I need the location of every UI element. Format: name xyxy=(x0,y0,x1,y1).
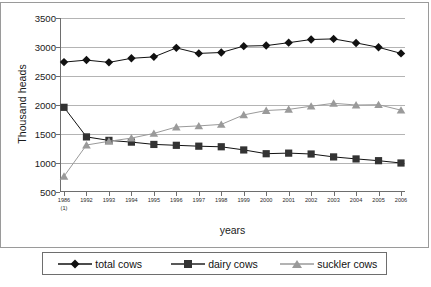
legend-label: suckler cows xyxy=(317,258,377,270)
chart-screenshot: Thousand heads 5001000150020002500300035… xyxy=(0,0,431,287)
diamond-marker-icon xyxy=(105,58,113,66)
square-marker-icon xyxy=(240,146,247,153)
square-marker-icon xyxy=(285,150,292,157)
square-marker-icon xyxy=(195,143,202,150)
diamond-marker-icon xyxy=(307,35,315,43)
diamond-marker-icon xyxy=(240,42,248,50)
diamond-marker-icon xyxy=(262,41,270,49)
y-axis-tick-label: 1500 xyxy=(22,129,56,140)
diamond-marker-icon xyxy=(127,54,135,62)
y-axis-tick xyxy=(56,192,60,193)
series-total-cows xyxy=(60,35,405,67)
diamond-marker-icon xyxy=(397,49,405,57)
x-axis-tick-label: 2006 xyxy=(381,196,421,204)
square-marker-icon xyxy=(60,104,67,111)
plot-area xyxy=(60,18,405,192)
x-axis-tick-labels: 1986(1)199219931994199519961997199819992… xyxy=(60,196,405,222)
legend-label: dairy cows xyxy=(208,258,258,270)
diamond-marker-icon xyxy=(82,56,90,64)
chart-legend: total cows dairy cows suckler cows xyxy=(42,252,387,275)
square-marker-icon xyxy=(397,159,404,166)
diamond-marker-icon xyxy=(150,53,158,61)
y-axis-tick-label: 1000 xyxy=(22,158,56,169)
legend-item-suckler-cows[interactable]: suckler cows xyxy=(272,258,386,270)
square-marker-icon xyxy=(308,150,315,157)
legend-item-total-cows[interactable]: total cows xyxy=(43,258,157,270)
y-axis-tick-label: 3000 xyxy=(22,42,56,53)
y-axis-tick-label: 3500 xyxy=(22,13,56,24)
x-axis-title: years xyxy=(60,224,405,236)
square-marker-icon xyxy=(150,141,157,148)
square-marker-icon xyxy=(83,133,90,140)
diamond-marker-icon xyxy=(374,43,382,51)
y-axis-tick-label: 2000 xyxy=(22,100,56,111)
diamond-marker-icon xyxy=(284,38,292,46)
series-line xyxy=(64,103,401,176)
series-dairy-cows xyxy=(60,104,404,167)
y-axis-tick-label: 2500 xyxy=(22,71,56,82)
legend-label: total cows xyxy=(95,258,142,270)
legend-item-dairy-cows[interactable]: dairy cows xyxy=(157,258,271,270)
diamond-marker-icon xyxy=(172,44,180,52)
data-series-layer xyxy=(60,18,405,192)
square-marker-icon xyxy=(218,143,225,150)
square-marker-icon xyxy=(352,155,359,162)
diamond-marker-icon xyxy=(60,58,68,66)
triangle-marker-icon xyxy=(150,129,159,136)
square-marker-icon xyxy=(173,142,180,149)
series-line xyxy=(64,107,401,163)
series-line xyxy=(64,39,401,63)
diamond-marker-icon xyxy=(195,49,203,57)
diamond-marker-icon xyxy=(58,258,92,270)
triangle-marker-icon xyxy=(60,172,69,179)
square-marker-icon xyxy=(263,150,270,157)
diamond-marker-icon xyxy=(217,48,225,56)
square-marker-icon xyxy=(171,258,205,270)
diamond-marker-icon xyxy=(352,39,360,47)
triangle-marker-icon xyxy=(280,258,314,270)
square-marker-icon xyxy=(330,153,337,160)
diamond-marker-icon xyxy=(329,35,337,43)
x-axis-tick-footnote: (1) xyxy=(44,204,84,212)
triangle-marker-icon xyxy=(329,99,338,106)
square-marker-icon xyxy=(375,157,382,164)
